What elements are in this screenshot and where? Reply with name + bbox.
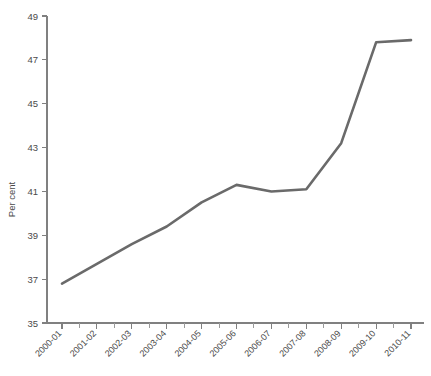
y-axis-tick-label: 47 xyxy=(27,54,38,65)
y-axis-tick-label: 43 xyxy=(27,142,38,153)
y-axis-tick-label: 41 xyxy=(27,186,38,197)
y-axis-tick-label: 37 xyxy=(27,274,38,285)
y-axis-tick-label: 49 xyxy=(27,11,38,22)
y-axis-tick-label: 35 xyxy=(27,318,38,329)
line-chart: 3537394143454749 2000-012001-022002-0320… xyxy=(0,0,431,376)
chart-canvas: 3537394143454749 2000-012001-022002-0320… xyxy=(0,0,431,376)
y-axis-title: Per cent xyxy=(6,181,17,217)
y-axis-tick-label: 45 xyxy=(27,98,38,109)
y-axis-tick-label: 39 xyxy=(27,230,38,241)
chart-background xyxy=(0,0,431,376)
